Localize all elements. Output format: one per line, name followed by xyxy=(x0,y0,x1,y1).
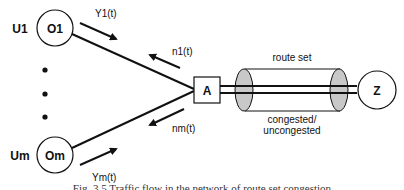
return-label-m: nm(t) xyxy=(172,123,195,134)
flow-label-1: Y1(t) xyxy=(95,8,117,19)
return-label-1: n1(t) xyxy=(172,46,193,57)
link-o1-a xyxy=(72,34,194,89)
destination-node-label: Z xyxy=(373,84,380,98)
figure-caption: Fig. 3.5 Traffic flow in the network of … xyxy=(0,182,404,190)
origin-node-m-label: Om xyxy=(45,149,65,163)
junction-node-a: A xyxy=(194,77,220,103)
link-om-a xyxy=(72,91,194,148)
route-set-label: route set xyxy=(273,52,312,63)
user-label-m: Um xyxy=(10,149,29,163)
traffic-flow-diagram: O1 U1 Om Um Y1(t) Ym(t) n1(t) nm(t) A ro… xyxy=(0,0,404,190)
route-state-label-1: congested/ xyxy=(268,114,317,125)
route-set-cylinder xyxy=(220,69,357,111)
user-label-1: U1 xyxy=(12,22,28,36)
route-state-label-2: uncongested xyxy=(263,125,320,136)
origin-node-1: O1 xyxy=(37,10,73,46)
junction-node-label: A xyxy=(203,84,212,98)
flow-arrow-1 xyxy=(80,23,116,39)
origin-node-1-label: O1 xyxy=(47,22,63,36)
flow-arrow-m xyxy=(80,149,116,165)
ellipsis-dots xyxy=(42,67,47,119)
origin-node-m: Om xyxy=(37,137,73,173)
destination-node-z: Z xyxy=(358,71,396,109)
